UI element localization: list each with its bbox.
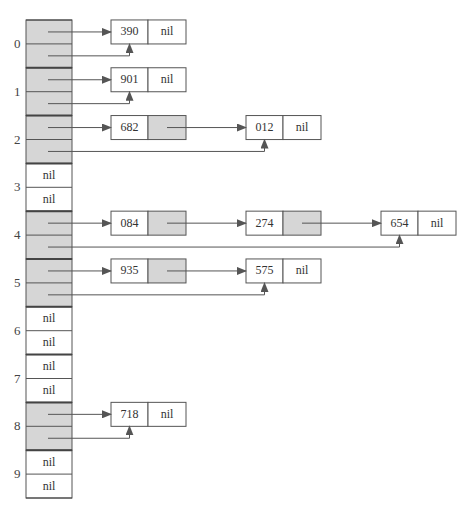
node-key: 901 (111, 68, 148, 92)
node-key: 718 (111, 402, 148, 426)
bucket-index-label: 0 (14, 36, 21, 52)
bucket-tail-nil: nil (26, 187, 72, 211)
bucket-tail-nil: nil (26, 331, 72, 355)
node-key: 935 (111, 259, 148, 283)
bucket-index-label: 9 (14, 466, 21, 482)
node-next-nil: nil (148, 402, 186, 426)
bucket-head-nil: nil (26, 307, 72, 331)
diagram-lines (0, 0, 471, 516)
node-key: 274 (246, 211, 283, 235)
node-next-nil: nil (148, 68, 186, 92)
node-next-nil: nil (283, 259, 321, 283)
bucket-tail-nil: nil (26, 474, 72, 498)
node-key: 390 (111, 20, 148, 44)
bucket-index-label: 5 (14, 275, 21, 291)
node-key: 654 (381, 211, 418, 235)
bucket-index-label: 1 (14, 84, 21, 100)
bucket-index-label: 7 (14, 371, 21, 387)
bucket-index-label: 8 (14, 418, 21, 434)
hash-table-diagram: 0390nil1901nil2682012nil3nilnil408427465… (0, 0, 471, 516)
bucket-index-label: 6 (14, 323, 21, 339)
node-next-nil: nil (148, 20, 186, 44)
node-key: 575 (246, 259, 283, 283)
bucket-tail-nil: nil (26, 379, 72, 403)
bucket-index-label: 4 (14, 227, 21, 243)
node-key: 084 (111, 211, 148, 235)
bucket-index-label: 2 (14, 132, 21, 148)
bucket-index-label: 3 (14, 179, 21, 195)
node-key: 682 (111, 116, 148, 140)
node-key: 012 (246, 116, 283, 140)
node-next-nil: nil (418, 211, 456, 235)
bucket-head-nil: nil (26, 163, 72, 187)
node-next-nil: nil (283, 116, 321, 140)
bucket-head-nil: nil (26, 450, 72, 474)
bucket-head-nil: nil (26, 355, 72, 379)
